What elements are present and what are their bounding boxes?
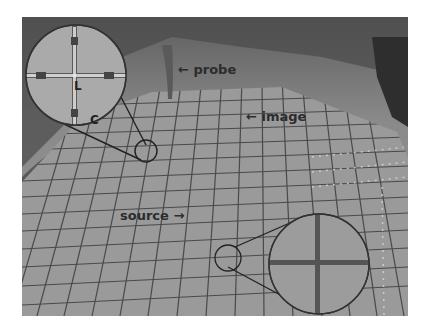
image-label: image xyxy=(261,109,306,124)
annotation-image: ← image xyxy=(246,109,306,124)
probe-label: probe xyxy=(193,62,236,77)
source-label: source xyxy=(120,208,169,223)
photograph: L C ← probe ← image source → xyxy=(22,17,408,316)
inset-label-C: C xyxy=(90,113,99,127)
inset-label-L: L xyxy=(74,79,82,93)
arrow-right-icon: → xyxy=(173,208,184,223)
annotation-source: source → xyxy=(120,208,184,223)
arrow-left-icon: ← xyxy=(178,62,189,77)
annotation-probe: ← probe xyxy=(178,62,236,77)
arrow-left-icon: ← xyxy=(246,109,257,124)
